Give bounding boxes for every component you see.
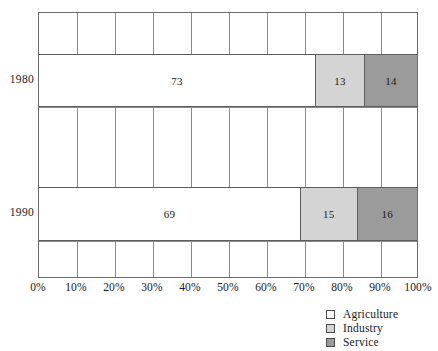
- category-label-1980: 1980: [0, 73, 34, 85]
- bar-value-label: 16: [382, 208, 393, 220]
- legend-label: Industry: [343, 322, 383, 334]
- legend-item-agriculture[interactable]: Agriculture: [326, 307, 398, 321]
- x-tick-50pct: 50%: [217, 281, 239, 293]
- category-label-1990: 1990: [0, 206, 34, 218]
- legend-item-service[interactable]: Service: [326, 335, 398, 349]
- x-tick-30pct: 30%: [141, 281, 163, 293]
- legend-swatch-service-icon: [326, 338, 335, 347]
- bar-segment-1990-service[interactable]: 16: [357, 188, 417, 240]
- x-axis-tick-labels: 0%10%20%30%40%50%60%70%80%90%100%: [0, 281, 438, 299]
- bar-segment-1980-agriculture[interactable]: 73: [39, 55, 315, 106]
- bar-segment-1980-service[interactable]: 14: [364, 55, 417, 106]
- bar-segment-1990-industry[interactable]: 15: [300, 188, 357, 240]
- legend-swatch-agriculture-icon: [326, 310, 335, 319]
- bar-value-label: 73: [171, 75, 182, 87]
- bar-value-label: 69: [164, 208, 175, 220]
- x-tick-70pct: 70%: [293, 281, 315, 293]
- x-tick-100pct: 100%: [404, 281, 432, 293]
- bar-segment-1990-agriculture[interactable]: 69: [39, 188, 300, 240]
- x-tick-40pct: 40%: [179, 281, 201, 293]
- bar-row-1990: 691516: [39, 187, 417, 241]
- bar-segment-1980-industry[interactable]: 13: [315, 55, 364, 106]
- x-tick-20pct: 20%: [103, 281, 125, 293]
- x-tick-90pct: 90%: [369, 281, 391, 293]
- x-tick-10pct: 10%: [65, 281, 87, 293]
- x-tick-80pct: 80%: [331, 281, 353, 293]
- bar-value-label: 14: [385, 75, 396, 87]
- plot-area: 731314691516: [38, 12, 418, 278]
- stacked-bar-chart: 731314691516 19801990 0%10%20%30%40%50%6…: [0, 0, 438, 351]
- band-separator-1-1: [39, 241, 417, 242]
- bar-value-label: 13: [334, 75, 345, 87]
- legend: AgricultureIndustryService: [326, 307, 398, 349]
- band-separator-0-1: [39, 107, 417, 108]
- x-tick-0pct: 0%: [30, 281, 46, 293]
- bar-row-1980: 731314: [39, 54, 417, 107]
- x-tick-60pct: 60%: [255, 281, 277, 293]
- bar-value-label: 15: [323, 208, 334, 220]
- legend-label: Service: [343, 336, 379, 348]
- legend-swatch-industry-icon: [326, 324, 335, 333]
- legend-label: Agriculture: [343, 308, 398, 320]
- legend-item-industry[interactable]: Industry: [326, 321, 398, 335]
